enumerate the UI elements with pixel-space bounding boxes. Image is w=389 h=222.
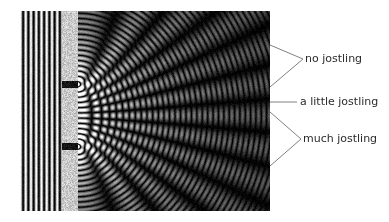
leader-lines-group <box>270 45 303 166</box>
leader-line-no-jostling-0 <box>270 45 303 59</box>
callout-label-a-little-jostling: a little jostling <box>300 96 378 108</box>
double-slit-simulation-image <box>20 11 270 211</box>
leader-line-much-jostling-1 <box>270 139 301 166</box>
leader-line-much-jostling-0 <box>270 112 301 139</box>
leader-line-no-jostling-1 <box>270 59 303 87</box>
callout-label-much-jostling: much jostling <box>303 133 377 145</box>
wave-interference-canvas <box>20 11 270 211</box>
callout-label-no-jostling: no jostling <box>305 53 362 65</box>
figure-stage: no jostling a little jostling much jostl… <box>0 0 389 222</box>
